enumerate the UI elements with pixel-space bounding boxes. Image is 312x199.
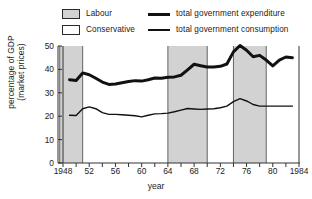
x-tick-label: 52 (85, 166, 94, 176)
y-tick-label: 10 (34, 136, 54, 144)
expenditure-line-key-icon (148, 13, 170, 16)
x-tick-label: 76 (242, 166, 251, 176)
y-axis-title-line1: percentage of GDP (6, 35, 16, 108)
x-tick-label: 72 (216, 166, 225, 176)
x-tick-label: 80 (268, 166, 277, 176)
y-tick-label: 50 (34, 42, 54, 50)
y-tick-label: 0 (34, 159, 54, 167)
legend-label-expenditure: total government expenditure (176, 10, 285, 18)
y-axis-title: percentage of GDP (market prices) (6, 10, 26, 134)
legend-item-conservative: Conservative (62, 23, 135, 37)
conservative-swatch-icon (62, 25, 80, 35)
legend-item-consumption: total government consumption (148, 23, 288, 37)
consumption-line-key-icon (148, 29, 170, 30)
labour-swatch-icon (62, 9, 80, 19)
x-tick-label: 1948 (54, 166, 73, 176)
chart-figure: Labour Conservative total government exp… (0, 0, 312, 199)
y-tick-label-group: 01020304050 (28, 0, 54, 199)
y-axis-title-line2: (market prices) (16, 43, 26, 100)
party-band-labour (233, 46, 266, 163)
legend-label-consumption: total government consumption (176, 26, 288, 34)
x-tick-label: 68 (189, 166, 198, 176)
legend-item-labour: Labour (62, 7, 112, 21)
party-band-labour (168, 46, 207, 163)
x-tick-label: 64 (163, 166, 172, 176)
y-tick-label: 30 (34, 89, 54, 97)
y-tick-label: 20 (34, 112, 54, 120)
x-tick-label: 1984 (290, 166, 309, 176)
legend-label-conservative: Conservative (86, 26, 135, 34)
chart-legend: Labour Conservative total government exp… (62, 7, 310, 39)
y-tick-label: 40 (34, 65, 54, 73)
x-tick-label: 56 (111, 166, 120, 176)
party-band-group (60, 46, 267, 163)
legend-label-labour: Labour (86, 10, 112, 18)
legend-item-expenditure: total government expenditure (148, 7, 285, 21)
x-tick-label: 60 (137, 166, 146, 176)
